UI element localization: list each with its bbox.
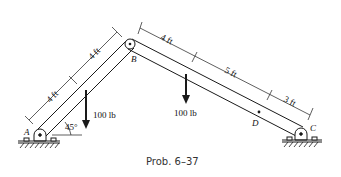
caption: Prob. 6–37 bbox=[146, 156, 199, 167]
label-d: D bbox=[251, 118, 259, 128]
load-arrow-2 bbox=[182, 74, 190, 104]
load-arrow-1 bbox=[82, 90, 90, 129]
frame-diagram: A B C D 4 ft 4 ft 4 ft 5 ft 3 ft 100 lb … bbox=[0, 0, 341, 177]
label-b: B bbox=[131, 54, 137, 64]
member-bc bbox=[128, 39, 303, 137]
angle-label: 45° bbox=[65, 122, 78, 132]
label-c: C bbox=[310, 123, 317, 133]
point-d bbox=[258, 111, 261, 114]
load-label-2: 100 lb bbox=[174, 108, 197, 118]
dim-ab-upper: 4 ft bbox=[86, 45, 102, 61]
dim-bc-third: 3 ft bbox=[282, 94, 298, 109]
load-label-1: 100 lb bbox=[93, 110, 116, 120]
label-a: A bbox=[23, 127, 30, 137]
